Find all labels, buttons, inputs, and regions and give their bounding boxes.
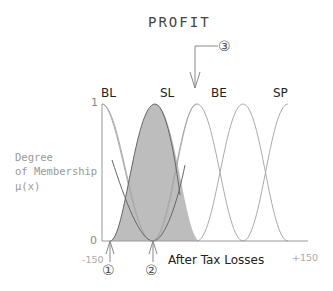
- chart-title: PROFIT: [148, 14, 211, 30]
- x-axis-label: After Tax Losses: [168, 253, 264, 267]
- y-axis-label-line1: Degree: [15, 150, 53, 164]
- sp-curve: [243, 104, 288, 241]
- marker-1: ①: [102, 262, 115, 278]
- membership-chart: [0, 0, 333, 291]
- marker-3: ③: [218, 38, 231, 54]
- term-label-sp: SP: [273, 86, 288, 100]
- y-axis-label-line2: of Membership: [15, 164, 97, 178]
- x-tick-min: -150: [82, 254, 104, 265]
- marker-3-arrow: [190, 46, 218, 88]
- marker-2-arrow: [149, 241, 157, 262]
- term-label-be: BE: [211, 86, 227, 100]
- marker-2: ②: [145, 262, 158, 278]
- y-tick-1: 1: [91, 96, 98, 109]
- y-axis-label-line3: μ(x): [15, 179, 40, 193]
- x-tick-max: +150: [292, 252, 318, 263]
- term-label-bl: BL: [101, 86, 116, 100]
- marker-1-arrow: [106, 241, 114, 262]
- curve-bell-4: [197, 104, 288, 241]
- term-label-sl: SL: [160, 86, 174, 100]
- y-tick-0: 0: [90, 234, 97, 247]
- sl-shaded-area: [110, 104, 200, 241]
